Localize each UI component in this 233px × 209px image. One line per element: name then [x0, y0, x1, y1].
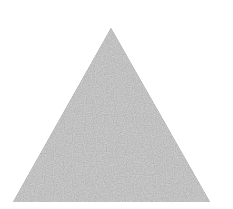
canvas: gray triangle — [0, 0, 233, 209]
triangle-graphic — [0, 0, 233, 209]
triangle-texture — [13, 28, 210, 202]
